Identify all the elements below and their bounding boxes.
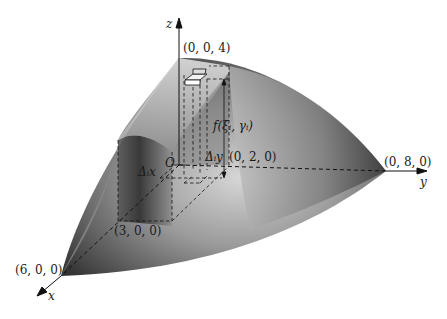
z-arrow-icon — [176, 18, 182, 28]
height-label: f(ξᵢ, γᵢ) — [213, 120, 253, 132]
z-intercept-label: (0, 0, 4) — [183, 42, 231, 54]
delta-y-label: Δᵢy — [205, 151, 223, 163]
y-axis-label: y — [420, 176, 427, 188]
x-mid-label: (3, 0, 0) — [114, 225, 162, 237]
surface — [61, 58, 386, 276]
x-axis-label: x — [48, 290, 55, 302]
delta-x-label: Δᵢx — [138, 166, 156, 178]
origin-label: O — [165, 157, 175, 169]
x-arrow-icon — [37, 287, 47, 296]
z-axis-label: z — [166, 18, 172, 30]
x-intercept-label: (6, 0, 0) — [15, 264, 63, 276]
y-intercept-label: (0, 8, 0) — [384, 156, 432, 168]
y-mid-label: (0, 2, 0) — [229, 151, 277, 163]
